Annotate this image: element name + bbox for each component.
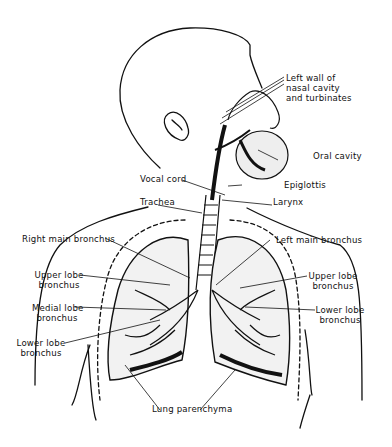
- label-left-lower-lobe-line2: bronchus: [314, 315, 366, 325]
- label-left-upper-lobe-line2: bronchus: [306, 281, 360, 291]
- label-left-main-bronchus: Left main bronchus: [276, 235, 362, 245]
- label-nasal-cavity-line1: Left wall of: [286, 73, 335, 83]
- label-medial-lobe-line2: bronchus: [32, 313, 82, 323]
- label-trachea: Trachea: [140, 197, 175, 207]
- respiratory-diagram: Left wall of nasal cavity and turbinates…: [0, 0, 392, 447]
- label-right-lower-lobe-line1: Lower lobe: [16, 338, 66, 348]
- left-lung: [210, 237, 290, 385]
- label-right-upper-lobe-line2: bronchus: [34, 280, 84, 290]
- label-left-lower-lobe-line1: Lower lobe: [314, 305, 366, 315]
- label-larynx: Larynx: [273, 197, 303, 207]
- label-nasal-cavity-line3: and turbinates: [286, 93, 352, 103]
- label-epiglottis: Epiglottis: [284, 180, 326, 190]
- anatomy-illustration: [0, 0, 392, 447]
- label-lung-parenchyma: Lung parenchyma: [152, 404, 232, 414]
- ear-icon: [164, 112, 188, 140]
- label-vocal-cord: Vocal cord: [140, 174, 186, 184]
- label-oral-cavity: Oral cavity: [313, 151, 362, 161]
- label-left-upper-lobe-line1: Upper lobe: [306, 271, 360, 281]
- label-right-main-bronchus: Right main bronchus: [22, 234, 115, 244]
- label-right-lower-lobe-line2: bronchus: [16, 348, 66, 358]
- label-nasal-cavity-line2: nasal cavity: [286, 83, 340, 93]
- label-right-upper-lobe-line1: Upper lobe: [34, 270, 84, 280]
- label-medial-lobe-line1: Medial lobe: [32, 303, 82, 313]
- oral-cavity: [236, 131, 288, 179]
